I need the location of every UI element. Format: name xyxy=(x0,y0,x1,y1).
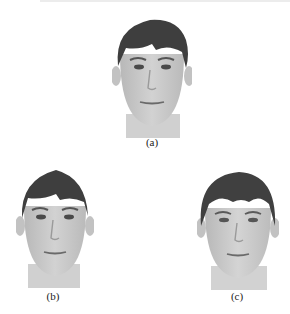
figure-panel-b xyxy=(16,168,94,288)
figure-panel-a xyxy=(112,14,192,138)
caption-b: (b) xyxy=(33,290,73,302)
caption-c: (c) xyxy=(217,290,257,302)
caption-a: (a) xyxy=(132,136,172,148)
face-image-a xyxy=(112,14,192,138)
page-top-rule xyxy=(40,0,290,2)
figure-panel-c xyxy=(197,168,279,290)
face-image-c xyxy=(197,168,279,290)
face-image-b xyxy=(16,168,94,288)
